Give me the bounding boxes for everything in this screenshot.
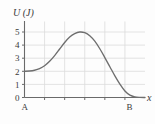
chart-canvas: 012345 U (J) x A B (0, 0, 155, 124)
y-axis-tick-label: 5 (15, 27, 20, 37)
y-axis-tick-label: 3 (15, 53, 20, 63)
y-axis-tick-label: 4 (15, 40, 20, 50)
y-axis-tick-label: 0 (15, 93, 20, 103)
y-axis-label: U (J) (13, 7, 34, 19)
axis-endpoint-label-a: A (22, 102, 29, 112)
potential-energy-figure: 012345 U (J) x A B (0, 0, 155, 124)
x-axis-label: x (146, 92, 152, 103)
y-axis-tick-label: 1 (15, 80, 20, 90)
y-axis-tick-label: 2 (15, 67, 20, 77)
axis-endpoint-label-b: B (127, 102, 133, 112)
